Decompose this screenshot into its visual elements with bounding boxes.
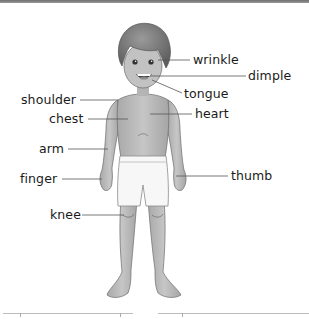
label-finger: finger — [20, 172, 57, 186]
label-shoulder: shoulder — [21, 93, 76, 107]
bottom-panel-right — [158, 313, 309, 319]
label-chest: chest — [49, 112, 83, 126]
boy-illustration — [0, 0, 309, 319]
torso — [117, 94, 169, 158]
shorts — [118, 156, 169, 206]
bottom-panel-left — [3, 313, 133, 319]
label-tongue: tongue — [184, 87, 229, 101]
label-knee: knee — [50, 208, 81, 222]
label-thumb: thumb — [231, 169, 272, 183]
label-dimple: dimple — [248, 69, 291, 83]
label-heart: heart — [195, 107, 229, 121]
label-wrinkle: wrinkle — [193, 53, 239, 67]
label-arm: arm — [39, 142, 64, 156]
